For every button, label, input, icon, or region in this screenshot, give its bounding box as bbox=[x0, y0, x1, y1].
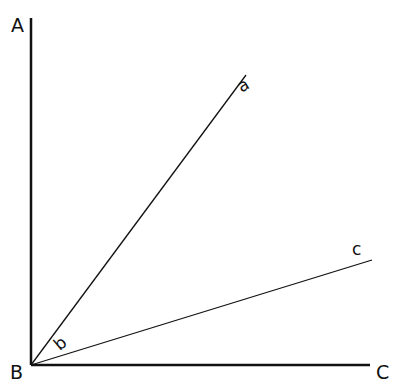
ray-a bbox=[31, 75, 246, 365]
label-b-upper: B bbox=[10, 363, 23, 382]
label-a-upper: A bbox=[11, 16, 24, 35]
ray-c bbox=[31, 260, 372, 365]
label-c-lower: c bbox=[352, 241, 361, 258]
angle-diagram bbox=[0, 0, 400, 388]
label-c-upper: C bbox=[376, 363, 389, 382]
